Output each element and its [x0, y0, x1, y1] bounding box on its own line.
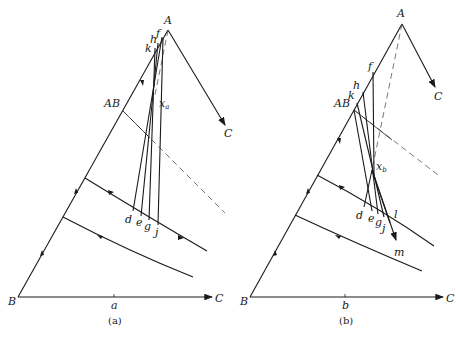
curve-upper — [317, 175, 434, 246]
tie-line-k-g — [149, 48, 155, 220]
label-e: e — [368, 212, 375, 225]
label-B: B — [239, 295, 248, 308]
label-l: l — [394, 208, 398, 221]
label-x: xa — [159, 97, 169, 111]
label-AB: AB — [103, 97, 120, 110]
label-tick-a: a — [111, 299, 118, 312]
panel-a: A f h k AB xa C d e g j B a C (a) — [7, 14, 233, 326]
label-k: k — [145, 42, 152, 55]
curve-upper — [85, 178, 207, 251]
arrow-marker — [337, 138, 341, 144]
curve-lower — [295, 215, 422, 271]
tie-line-f-d — [133, 37, 162, 211]
label-B: B — [7, 295, 16, 308]
label-f: f — [367, 60, 374, 73]
curve-lower — [63, 217, 193, 277]
diagram-canvas: A f h k AB xa C d e g j B a C (a) — [0, 0, 456, 337]
label-AB: AB — [333, 97, 350, 110]
edge-ac — [402, 24, 435, 87]
label-j: j — [152, 226, 159, 239]
label-C-base: C — [446, 292, 455, 305]
label-C-edge: C — [434, 90, 443, 103]
edge-ac — [168, 30, 225, 125]
label-g: g — [144, 220, 151, 233]
arrow-marker — [97, 235, 103, 239]
label-C-base: C — [215, 292, 224, 305]
tie-line-j — [158, 38, 163, 225]
arrow-marker — [273, 250, 277, 256]
label-x: xb — [376, 160, 387, 174]
label-e: e — [136, 216, 143, 229]
label-C-edge: C — [224, 127, 233, 140]
label-A: A — [396, 7, 405, 20]
caption-a: (a) — [108, 315, 122, 326]
label-d: d — [125, 213, 132, 226]
label-tick-b: b — [342, 299, 349, 312]
arrow-marker — [140, 80, 144, 86]
label-A: A — [163, 14, 172, 27]
tie-line-f — [373, 72, 374, 175]
label-m: m — [394, 246, 404, 259]
label-g: g — [375, 216, 382, 229]
tie-line-ab-e — [354, 110, 372, 211]
panel-b: A f h k AB xb C d e g j l m B b C (b) — [239, 7, 455, 326]
caption-b: (b) — [339, 315, 353, 326]
label-d: d — [356, 209, 363, 222]
